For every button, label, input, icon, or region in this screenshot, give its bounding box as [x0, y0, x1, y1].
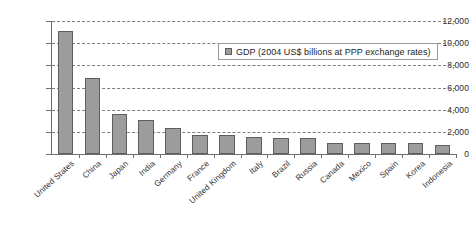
bar-series [52, 21, 456, 154]
x-tick-mark [267, 154, 268, 158]
x-label-canada: Canada [318, 159, 346, 185]
bar [408, 143, 424, 154]
chart-legend: GDP (2004 US$ billions at PPP exchange r… [218, 43, 438, 60]
x-tick-mark [375, 154, 376, 158]
bar [192, 135, 208, 154]
bar [85, 78, 101, 154]
gdp-bar-chart-figure: 02,0004,0006,0008,00010,00012,000 United… [0, 0, 469, 231]
x-label-italy: Italy [247, 159, 265, 176]
x-label-china: China [81, 159, 103, 180]
legend-swatch-icon [225, 48, 232, 55]
bar [327, 143, 343, 154]
x-label-japan: Japan [107, 159, 130, 181]
x-label-brazil: Brazil [270, 159, 292, 180]
x-tick-mark [79, 154, 80, 158]
x-tick-mark [241, 154, 242, 158]
bar [165, 128, 181, 154]
x-tick-mark [214, 154, 215, 158]
x-label-korea: Korea [404, 159, 427, 181]
x-tick-mark [456, 154, 457, 158]
x-tick-mark [294, 154, 295, 158]
legend-label: GDP (2004 US$ billions at PPP exchange r… [236, 47, 431, 57]
x-tick-mark [160, 154, 161, 158]
x-tick-mark [106, 154, 107, 158]
x-label-united-states: United States [33, 159, 77, 199]
x-tick-mark [133, 154, 134, 158]
bar [354, 143, 370, 154]
x-label-germany: Germany [153, 159, 185, 189]
bar [219, 135, 235, 154]
x-tick-mark [187, 154, 188, 158]
x-tick-mark [402, 154, 403, 158]
x-label-spain: Spain [378, 159, 400, 180]
x-label-russia: Russia [294, 159, 319, 183]
bar [381, 143, 397, 154]
gridline-0 [52, 154, 456, 155]
x-tick-mark [429, 154, 430, 158]
bar [435, 145, 451, 154]
x-label-mexico: Mexico [347, 159, 373, 183]
x-tick-mark [321, 154, 322, 158]
x-label-india: India [138, 159, 158, 178]
bar [246, 137, 262, 154]
bar [58, 31, 74, 154]
plot-area [52, 21, 456, 154]
bar [273, 138, 289, 154]
bar [138, 120, 154, 154]
bar [300, 138, 316, 154]
x-tick-mark [348, 154, 349, 158]
bar [112, 114, 128, 154]
